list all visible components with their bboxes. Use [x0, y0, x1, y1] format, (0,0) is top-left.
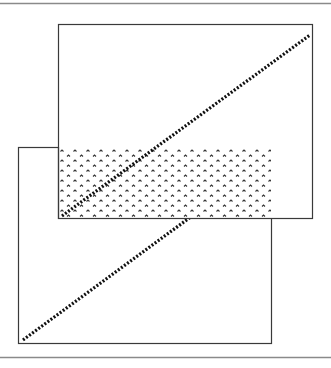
diagram-canvas [0, 0, 331, 368]
overlap-region [59, 148, 271, 218]
overlapping-rectangles-diagram: Two overlapping rectangles, each with a … [0, 0, 331, 368]
